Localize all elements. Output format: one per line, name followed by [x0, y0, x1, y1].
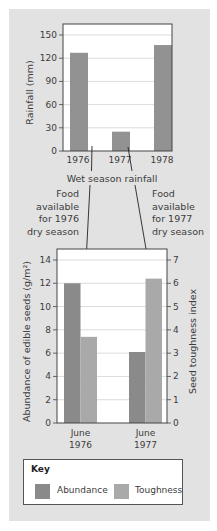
y-tick-label-left: 12	[40, 278, 51, 288]
left-note-line: available	[36, 201, 79, 212]
abundance-bar-1	[129, 352, 146, 423]
x-tick-label: 1978	[151, 155, 174, 165]
y-tick-label-right: 7	[173, 255, 179, 265]
toughness-bar-1	[146, 279, 163, 423]
right-note-line: available	[152, 201, 195, 212]
y-tick-label: 0	[51, 146, 57, 156]
x-tick-label: 1977	[109, 155, 132, 165]
figure-svg: 0306090120150197619771978Rainfall (mm)We…	[0, 0, 217, 531]
x-tick-label: 1976	[69, 440, 92, 450]
y-tick-label-left: 0	[45, 418, 51, 428]
y-tick-label-left: 10	[40, 302, 52, 312]
y-tick-label: 120	[40, 53, 57, 63]
y-tick-label-left: 4	[45, 371, 51, 381]
rainfall-bar-1976	[70, 53, 88, 151]
x-tick-label: June	[135, 428, 156, 438]
y-tick-label-right: 4	[173, 325, 179, 335]
y-tick-label: 30	[46, 123, 58, 133]
rainfall-y-axis-label: Rainfall (mm)	[24, 60, 35, 124]
y-tick-label-left: 8	[45, 325, 51, 335]
legend-key: Key Abundance Toughness	[23, 459, 183, 505]
y-tick-label-right: 1	[173, 395, 179, 405]
y-tick-label-left: 14	[40, 255, 52, 265]
y-tick-label-right: 0	[173, 418, 179, 428]
x-tick-label: 1976	[67, 155, 90, 165]
rainfall-x-caption: Wet season rainfall	[67, 173, 158, 184]
y-tick-label-left: 2	[45, 395, 51, 405]
x-tick-label: 1977	[134, 440, 157, 450]
legend-label-toughness: Toughness	[135, 485, 182, 495]
y-tick-label: 150	[40, 30, 57, 40]
right-note-line: Food	[152, 188, 175, 199]
right-note-line: dry season	[152, 226, 204, 237]
toughness-swatch-icon	[114, 484, 129, 499]
arrow-1976-upper	[92, 146, 93, 171]
rainfall-bar-1977	[112, 132, 130, 151]
right-note-line: for 1977	[152, 213, 192, 224]
left-note-line: Food	[56, 188, 79, 199]
seed-y-axis-label-right: Seed toughness index	[187, 289, 198, 395]
legend-label-abundance: Abundance	[57, 485, 108, 495]
y-tick-label-right: 6	[173, 278, 179, 288]
y-tick-label-right: 2	[173, 371, 179, 381]
left-note-line: dry season	[27, 226, 79, 237]
legend-title: Key	[31, 464, 50, 474]
y-tick-label-left: 6	[45, 348, 51, 358]
seed-y-axis-label-left: Abundance of edible seeds (g/m²)	[21, 261, 32, 422]
y-tick-label: 60	[46, 100, 58, 110]
toughness-bar-0	[81, 337, 98, 423]
y-tick-label-right: 3	[173, 348, 179, 358]
y-tick-label-right: 5	[173, 302, 179, 312]
abundance-swatch-icon	[35, 484, 50, 499]
y-tick-label: 90	[46, 76, 58, 86]
abundance-bar-0	[64, 283, 81, 423]
left-note-line: for 1976	[39, 213, 79, 224]
x-tick-label: June	[70, 428, 91, 438]
rainfall-bar-1978	[154, 45, 172, 151]
